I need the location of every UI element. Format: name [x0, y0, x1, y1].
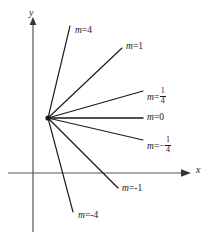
slope-line-m-4 — [48, 26, 70, 118]
slope-label-m-neg-1: m=-1 — [122, 184, 142, 194]
slope-label-symbol: m — [78, 210, 85, 220]
slope-label-m-0: m=0 — [147, 113, 164, 123]
slope-label-symbol: m — [122, 183, 129, 193]
slope-label-value: 0 — [159, 112, 164, 122]
slope-label-equals: = — [154, 92, 159, 102]
fraction-denominator: 4 — [160, 97, 166, 106]
slope-label-m-neg-4: m=-4 — [78, 211, 98, 221]
fraction-one-quarter: 14 — [160, 87, 166, 105]
slope-family-figure: y x m=4 m=1 m=14 m=0 m=−14 m=-1 m=-4 — [0, 0, 210, 237]
slope-label-value: -4 — [90, 210, 98, 220]
minus-sign: − — [159, 141, 164, 151]
slope-label-value: 1 — [138, 41, 143, 51]
y-axis-label: y — [29, 8, 33, 18]
figure-canvas — [0, 0, 210, 237]
x-axis — [8, 169, 191, 177]
slope-line-m-neg-one-quarter — [48, 118, 143, 140]
slope-label-value: -1 — [134, 183, 142, 193]
slope-label-symbol: m — [147, 141, 154, 151]
fraction-one-quarter: 14 — [165, 136, 171, 154]
slope-label-m-1: m=1 — [126, 42, 143, 52]
slope-label-symbol: m — [147, 112, 154, 122]
fraction-denominator: 4 — [165, 146, 171, 155]
slope-label-m-neg-one-quarter: m=−14 — [147, 136, 171, 154]
slope-line-m-neg-1 — [48, 118, 118, 188]
slope-label-value: 4 — [87, 25, 92, 35]
slope-line-m-neg-4 — [48, 118, 73, 212]
slope-label-m-4: m=4 — [75, 26, 92, 36]
x-axis-label: x — [196, 165, 200, 175]
y-axis — [30, 17, 37, 232]
slope-label-m-one-quarter: m=14 — [147, 87, 166, 105]
slope-label-symbol: m — [126, 41, 133, 51]
slope-label-symbol: m — [75, 25, 82, 35]
common-point-dot — [45, 115, 50, 120]
slope-label-symbol: m — [147, 92, 154, 102]
